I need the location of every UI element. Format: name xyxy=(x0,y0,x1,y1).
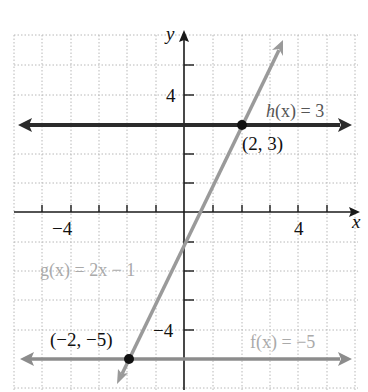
g-function-label: g(x) = 2x − 1 xyxy=(40,260,135,281)
y-ticks xyxy=(184,65,194,330)
tick-label-x-pos4: 4 xyxy=(294,218,304,239)
point-label-2-3: (2, 3) xyxy=(242,133,283,155)
arrow-right-icon xyxy=(338,118,352,132)
y-axis-label: y xyxy=(164,23,175,44)
line-f xyxy=(20,352,352,366)
h-function-label: h(x) = 3 xyxy=(266,101,324,122)
tick-label-y-neg4: −4 xyxy=(153,320,174,341)
x-axis-label: x xyxy=(351,211,361,232)
arrow-right-icon xyxy=(338,352,352,366)
f-function-label: f(x) = −5 xyxy=(250,332,315,353)
tick-label-x-neg4: −4 xyxy=(52,218,73,239)
tick-label-y-pos4: 4 xyxy=(166,85,176,106)
intersection-point-2-3 xyxy=(237,120,247,130)
graph: y x −4 4 4 −4 h(x) = 3 g(x) = 2x − 1 f(x… xyxy=(0,0,368,392)
point-label-neg2-neg5: (−2, −5) xyxy=(50,329,113,351)
intersection-point-neg2-neg5 xyxy=(124,354,134,364)
